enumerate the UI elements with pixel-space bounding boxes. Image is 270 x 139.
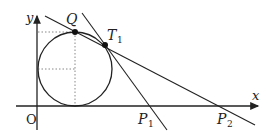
point-p1-label: P xyxy=(137,111,148,127)
x-axis-label: x xyxy=(252,88,260,103)
point-t1-subscript: 1 xyxy=(117,35,123,45)
point-q-label: Q xyxy=(66,11,78,27)
point-p1-subscript: 1 xyxy=(148,119,154,129)
point-q xyxy=(72,29,78,35)
geometry-diagram: y x O Q T 1 P 1 P 2 xyxy=(0,0,270,139)
diagram-canvas: y x O Q T 1 P 1 P 2 xyxy=(0,0,270,139)
point-p2-subscript: 2 xyxy=(227,119,233,129)
y-axis-label: y xyxy=(25,10,34,25)
point-p2-label: P xyxy=(216,111,227,127)
origin-label: O xyxy=(26,112,37,127)
tangent-line-p1 xyxy=(82,13,167,130)
